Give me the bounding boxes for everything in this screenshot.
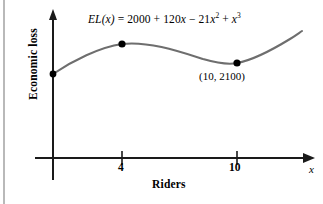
- data-point-maximum: [118, 40, 125, 47]
- y-axis-arrowhead: [49, 9, 57, 20]
- figure-canvas: EL(x) = 2000 + 120x − 21x2 + x3 (10, 210…: [0, 0, 323, 204]
- point-coordinate-label: (10, 2100): [199, 71, 245, 82]
- x-axis-title: Riders: [152, 179, 186, 191]
- equation-terms: 2000 + 120: [127, 13, 181, 25]
- x-axis-arrowhead: [303, 153, 315, 163]
- x-axis-variable-symbol: x: [309, 164, 314, 175]
- y-axis-title: Economic loss: [27, 28, 39, 100]
- y-axis-title-wrapper: Economic loss: [24, 14, 40, 114]
- equation-equals: =: [115, 13, 128, 25]
- data-point-intercept: [50, 71, 57, 78]
- equation-exponent-3: 3: [237, 11, 241, 20]
- equation-argument: (x): [102, 13, 115, 25]
- x-tick-label-10: 10: [229, 162, 241, 174]
- equation-annotation: EL(x) = 2000 + 120x − 21x2 + x3: [88, 14, 241, 26]
- data-point-minimum: [233, 59, 240, 66]
- x-tick-label-4: 4: [118, 162, 124, 174]
- equation-plus: +: [219, 13, 232, 25]
- equation-function-name: EL: [88, 13, 102, 25]
- equation-minus-term: − 21: [186, 13, 210, 25]
- curve-economic-loss: [53, 31, 302, 74]
- plot-area: [0, 0, 323, 204]
